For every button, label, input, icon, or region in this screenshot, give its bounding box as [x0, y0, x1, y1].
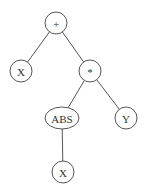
edge-mul-y: [97, 80, 120, 110]
node-label: Y: [122, 113, 130, 125]
node-label: X: [59, 167, 67, 179]
node-label: +: [53, 18, 59, 30]
node-x2: X: [52, 161, 74, 183]
edge-plus-mul: [62, 32, 83, 62]
node-label: *: [87, 66, 93, 78]
tree-edges: [27, 32, 119, 161]
node-x1: X: [10, 60, 32, 82]
node-label: X: [17, 66, 25, 78]
node-abs: ABS: [45, 107, 79, 129]
edge-plus-x1: [27, 32, 49, 62]
node-y: Y: [115, 107, 137, 129]
edge-abs-x2: [62, 129, 63, 161]
tree-nodes: +X*ABSYX: [10, 12, 137, 183]
edge-mul-abs: [68, 80, 84, 107]
node-label: ABS: [51, 113, 72, 125]
expression-tree-diagram: +X*ABSYX: [0, 0, 145, 193]
node-mul: *: [79, 60, 101, 82]
node-plus: +: [45, 12, 67, 34]
